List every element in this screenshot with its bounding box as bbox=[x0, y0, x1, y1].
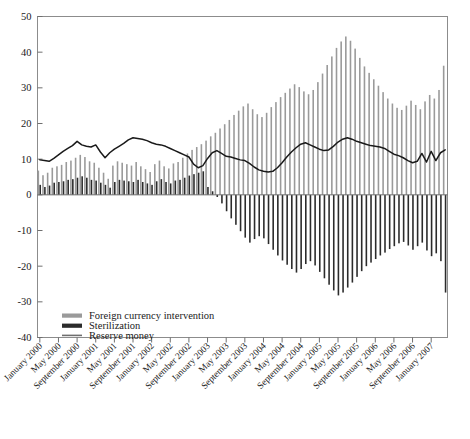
intervention-bar bbox=[266, 113, 268, 195]
sterilization-bar bbox=[282, 195, 284, 261]
intervention-bar bbox=[196, 147, 198, 195]
intervention-bar bbox=[238, 111, 240, 195]
sterilization-bar bbox=[240, 195, 242, 231]
intervention-bar bbox=[168, 168, 170, 194]
sterilization-bar bbox=[366, 195, 368, 266]
sterilization-bar bbox=[49, 186, 51, 195]
sterilization-bar bbox=[184, 178, 186, 195]
intervention-bar bbox=[336, 48, 338, 195]
intervention-bar bbox=[382, 92, 384, 195]
intervention-bar bbox=[84, 157, 86, 195]
intervention-bar bbox=[359, 58, 361, 195]
intervention-bar bbox=[140, 166, 142, 195]
intervention-bar bbox=[373, 79, 375, 195]
sterilization-bar bbox=[53, 183, 55, 195]
sterilization-bar bbox=[77, 178, 79, 195]
sterilization-bar bbox=[193, 174, 195, 195]
sterilization-bar bbox=[114, 182, 116, 195]
sterilization-bar bbox=[380, 195, 382, 256]
sterilization-bar bbox=[305, 195, 307, 264]
sterilization-bar bbox=[324, 195, 326, 278]
sterilization-bar bbox=[268, 195, 270, 244]
intervention-bar bbox=[182, 158, 184, 195]
intervention-bar bbox=[131, 166, 133, 195]
legend-item-reserve-money: Reserve money bbox=[62, 330, 155, 341]
intervention-bar bbox=[145, 169, 147, 195]
sterilization-bar bbox=[408, 195, 410, 246]
sterilization-bar bbox=[296, 195, 298, 273]
intervention-bar bbox=[284, 93, 286, 195]
sterilization-bar bbox=[133, 182, 135, 195]
intervention-bar bbox=[177, 162, 179, 195]
intervention-bar bbox=[331, 56, 333, 194]
intervention-bar bbox=[219, 128, 221, 194]
intervention-bar bbox=[149, 172, 151, 195]
sterilization-bar bbox=[203, 171, 205, 195]
sterilization-bar bbox=[291, 195, 293, 269]
sterilization-bar bbox=[109, 188, 111, 195]
sterilization-bar bbox=[310, 195, 312, 261]
sterilization-bar bbox=[156, 181, 158, 195]
intervention-bar bbox=[378, 86, 380, 195]
sterilization-bar bbox=[356, 195, 358, 277]
sterilization-bar bbox=[175, 181, 177, 195]
intervention-bar bbox=[70, 161, 72, 195]
intervention-bar bbox=[401, 110, 403, 195]
intervention-bars bbox=[38, 36, 445, 194]
sterilization-bar bbox=[58, 182, 60, 195]
sterilization-bar bbox=[417, 195, 419, 246]
intervention-bar bbox=[396, 108, 398, 195]
intervention-bar bbox=[75, 158, 77, 195]
intervention-bar bbox=[434, 99, 436, 195]
sterilization-bar bbox=[91, 180, 93, 195]
intervention-bar bbox=[191, 150, 193, 195]
intervention-bar bbox=[415, 105, 417, 195]
y-tick-label: -20 bbox=[18, 261, 32, 272]
sterilization-bar bbox=[333, 195, 335, 291]
sterilization-bar bbox=[286, 195, 288, 265]
intervention-bar bbox=[233, 115, 235, 195]
legend-swatch-intervention bbox=[62, 314, 82, 318]
intervention-bar bbox=[298, 87, 300, 195]
sterilization-bar bbox=[426, 195, 428, 251]
intervention-bar bbox=[261, 117, 263, 195]
intervention-bar bbox=[98, 168, 100, 195]
sterilization-bar bbox=[319, 195, 321, 272]
sterilization-bar bbox=[440, 195, 442, 261]
intervention-bar bbox=[438, 90, 440, 195]
sterilization-bar bbox=[105, 185, 107, 195]
intervention-bar bbox=[79, 155, 81, 195]
sterilization-bar bbox=[179, 180, 181, 195]
intervention-bar bbox=[103, 173, 105, 195]
intervention-bar bbox=[52, 168, 54, 195]
sterilization-bar bbox=[431, 195, 433, 256]
sterilization-bar bbox=[230, 195, 232, 219]
intervention-bar bbox=[126, 164, 128, 195]
y-tick-label: -30 bbox=[18, 296, 32, 307]
y-tick-label: -10 bbox=[18, 225, 32, 236]
sterilization-bar bbox=[403, 195, 405, 242]
sterilization-bar bbox=[249, 195, 251, 243]
intervention-bar bbox=[387, 99, 389, 195]
intervention-bar bbox=[410, 101, 412, 195]
sterilization-bar bbox=[189, 176, 191, 195]
sterilization-bar bbox=[72, 179, 74, 195]
intervention-bar bbox=[47, 173, 49, 195]
sterilization-bar bbox=[398, 195, 400, 244]
sterilization-bar bbox=[39, 185, 41, 195]
sterilization-bar bbox=[244, 195, 246, 238]
intervention-bar bbox=[173, 163, 175, 194]
sterilization-bar bbox=[338, 195, 340, 296]
intervention-bar bbox=[350, 41, 352, 195]
intervention-bar bbox=[247, 104, 249, 195]
intervention-bar bbox=[205, 141, 207, 195]
sterilization-bar bbox=[170, 183, 172, 194]
intervention-bar bbox=[406, 106, 408, 195]
sterilization-bar bbox=[86, 178, 88, 195]
sterilization-bar bbox=[81, 176, 83, 195]
sterilization-bar bbox=[272, 195, 274, 250]
intervention-bar bbox=[340, 41, 342, 194]
sterilization-bar bbox=[137, 180, 139, 195]
intervention-bar bbox=[38, 171, 40, 195]
intervention-bar bbox=[326, 65, 328, 195]
